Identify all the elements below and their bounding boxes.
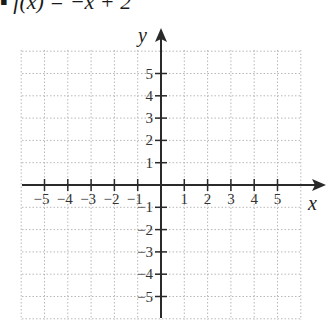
y-tick-label: −3 [137,244,153,260]
x-tick-label: 5 [274,191,282,207]
x-tick-label: 1 [181,191,189,207]
x-tick-label: 3 [227,191,235,207]
y-tick-label: −2 [137,222,153,238]
y-tick-label: −5 [137,289,153,305]
x-tick-label: 4 [250,191,258,207]
y-tick-label: 3 [146,110,154,126]
y-tick-label: 5 [146,66,154,82]
y-axis-label: y [136,24,147,47]
x-tick-label: −4 [57,191,73,207]
y-tick-label: −1 [137,199,153,215]
x-tick-label: −5 [34,191,50,207]
x-tick-label: 2 [204,191,212,207]
coordinate-plane: −5−4−3−2−11234554321−1−2−3−4−5 x y [0,0,328,326]
y-tick-label: 1 [146,155,154,171]
x-tick-label: −3 [80,191,96,207]
x-axis-label: x [307,192,317,214]
x-tick-label: −2 [103,191,119,207]
y-tick-label: 4 [146,88,154,104]
y-tick-label: −4 [137,266,153,282]
y-tick-label: 2 [146,132,154,148]
